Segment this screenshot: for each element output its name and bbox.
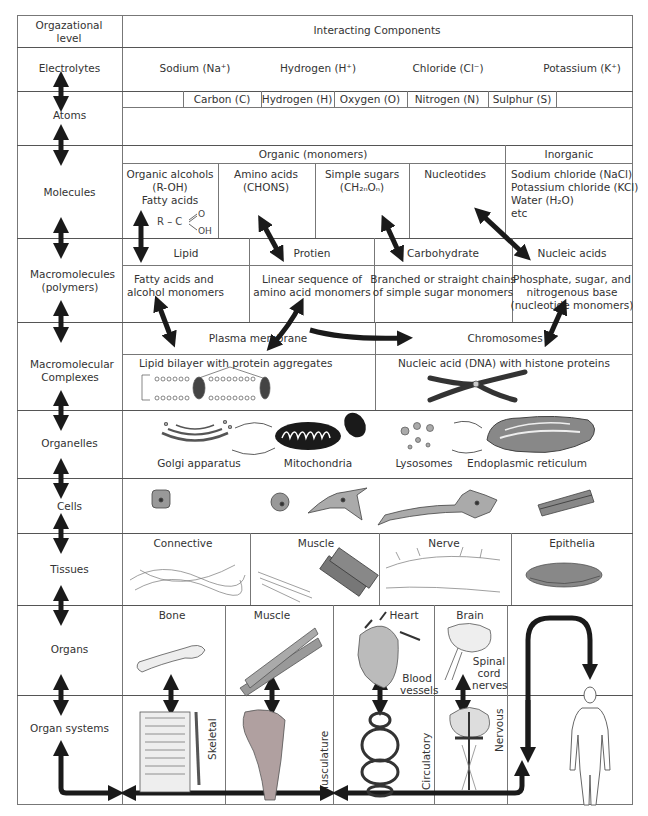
human-figure-icon xyxy=(570,687,610,805)
illustration-overlay xyxy=(0,0,648,816)
lipid-bilayer-icon xyxy=(142,367,270,400)
organ-system-icons xyxy=(140,708,490,801)
lysosomes-icon xyxy=(401,423,434,450)
mitochondria-icon xyxy=(275,409,370,450)
organ-icons xyxy=(137,612,491,696)
chromosome-icon xyxy=(430,372,525,400)
golgi-icon xyxy=(162,421,232,441)
cells-icons xyxy=(152,488,594,525)
tissue-icons xyxy=(130,547,602,602)
endoplasmic-reticulum-icon xyxy=(487,416,595,452)
